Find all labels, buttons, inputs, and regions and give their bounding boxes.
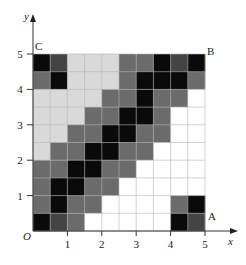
grid-cell: [85, 178, 103, 196]
grid-cell: [33, 54, 51, 72]
grid-cell: [188, 196, 206, 214]
grid-cell: [153, 196, 171, 214]
grid-cell: [33, 160, 51, 178]
grid-cell: [188, 213, 206, 231]
grid-cell: [153, 54, 171, 72]
grid-cell: [171, 107, 189, 125]
grid-cell: [102, 107, 120, 125]
grid-cell: [136, 72, 154, 90]
grid-cell: [188, 89, 206, 107]
grid-cell: [50, 107, 67, 125]
grid-cell: [102, 213, 120, 231]
grid-cell: [171, 72, 189, 90]
grid-cell: [119, 125, 137, 143]
grid-cell: [188, 107, 206, 125]
grid-cell: [119, 160, 137, 178]
grid-cell: [188, 160, 206, 178]
grid-cell: [153, 213, 171, 231]
grid-cell: [136, 143, 154, 161]
y-tick-label: 3: [17, 119, 23, 131]
grid-cell: [153, 107, 171, 125]
grid-cell: [102, 178, 120, 196]
grid-cell: [67, 213, 85, 231]
grid-cell: [50, 213, 67, 231]
grid-cell: [119, 196, 137, 214]
grid-cell: [102, 160, 120, 178]
grid-cell: [171, 196, 189, 214]
grid-cell: [67, 54, 85, 72]
grid-cell: [67, 160, 85, 178]
grid-cell: [119, 143, 137, 161]
grid-cell: [171, 125, 189, 143]
grid-cell: [102, 72, 120, 90]
grid-cell: [136, 160, 154, 178]
grid-cell: [67, 107, 85, 125]
grid-cell: [33, 125, 51, 143]
grid-cell: [188, 143, 206, 161]
grid-cell: [50, 125, 67, 143]
grid-cell: [153, 143, 171, 161]
y-tick-label: 4: [17, 83, 23, 95]
grid-cell: [102, 125, 120, 143]
x-axis-label: x: [227, 235, 233, 247]
grid-cell: [50, 178, 67, 196]
grid-cell: [50, 54, 67, 72]
x-axis-arrow-icon: [230, 228, 238, 234]
grid-cell: [102, 143, 120, 161]
y-tick-label: 1: [17, 190, 23, 202]
x-tick-label: 1: [65, 238, 71, 250]
grid-cell: [102, 89, 120, 107]
grid-cell: [102, 196, 120, 214]
grid-cell: [136, 107, 154, 125]
grid-cell: [67, 125, 85, 143]
y-axis-label: y: [23, 10, 29, 22]
grid-cell: [171, 89, 189, 107]
grid-cell: [188, 178, 206, 196]
y-tick-label: 2: [17, 154, 23, 166]
x-tick-label: 2: [99, 238, 105, 250]
grayscale-grid-diagram: 1234512345 y x O C B A: [0, 0, 246, 265]
grid-cell: [67, 89, 85, 107]
grid-cell: [85, 72, 103, 90]
y-axis-arrow-icon: [30, 14, 36, 22]
grid-cell: [171, 160, 189, 178]
grid-cell: [85, 143, 103, 161]
grid-cell: [85, 160, 103, 178]
origin-label: O: [23, 230, 31, 242]
grid-cell: [102, 54, 120, 72]
grid-cell: [85, 196, 103, 214]
grid-cell: [67, 143, 85, 161]
grid-cell: [153, 89, 171, 107]
grid-cell: [67, 196, 85, 214]
grid-cell: [33, 72, 51, 90]
x-tick-label: 3: [133, 238, 139, 250]
grid-cell: [67, 178, 85, 196]
grid-cell: [153, 160, 171, 178]
grid-cell: [171, 178, 189, 196]
grid-cell: [171, 143, 189, 161]
grid-cell: [50, 196, 67, 214]
grid-cell: [33, 89, 51, 107]
grid-cell: [153, 125, 171, 143]
grid-cell: [136, 125, 154, 143]
grid-cell: [171, 54, 189, 72]
grid-cell: [119, 89, 137, 107]
grid-cell: [153, 178, 171, 196]
grid-cell: [171, 213, 189, 231]
grid-cell: [136, 178, 154, 196]
x-tick-label: 5: [202, 238, 208, 250]
grid-cell: [85, 89, 103, 107]
grid-cell: [188, 54, 206, 72]
grid-cell: [33, 196, 51, 214]
grid-cell: [119, 54, 137, 72]
grid-cell: [33, 143, 51, 161]
grid-cell: [136, 213, 154, 231]
corner-label-c: C: [35, 40, 42, 52]
grid-cell: [33, 107, 51, 125]
grid-cell: [119, 72, 137, 90]
grid-cell: [67, 72, 85, 90]
grid-cell: [50, 143, 67, 161]
grid-cell: [136, 54, 154, 72]
corner-label-b: B: [207, 45, 214, 57]
grid-cell: [136, 196, 154, 214]
